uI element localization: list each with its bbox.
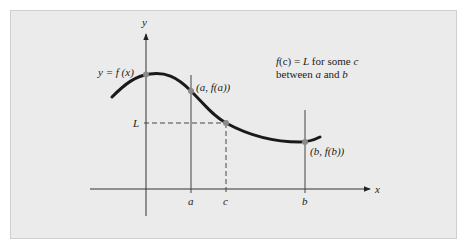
point-a bbox=[188, 88, 194, 94]
c-text: c bbox=[353, 55, 358, 67]
point-b-label: (b, f(b)) bbox=[310, 145, 344, 157]
for-some-text: for some bbox=[309, 55, 353, 67]
L-tick-label: L bbox=[133, 117, 139, 129]
point-b bbox=[302, 139, 308, 145]
y-axis-label: y bbox=[142, 16, 147, 28]
equals-text: (c) = bbox=[279, 55, 303, 67]
b-tick-label: b bbox=[302, 195, 308, 207]
between-text: between bbox=[276, 68, 315, 80]
ivt-annotation: f(c) = L for some c between a and b bbox=[276, 55, 358, 81]
point-c bbox=[223, 120, 229, 126]
a-tick-label: a bbox=[188, 195, 194, 207]
y-intercept-point bbox=[143, 72, 149, 78]
x-axis-label: x bbox=[375, 183, 380, 195]
annotation-line-2: between a and b bbox=[276, 68, 358, 81]
annotation-line-1: f(c) = L for some c bbox=[276, 55, 358, 68]
curve-label: y = f (x) bbox=[98, 66, 134, 78]
point-a-label: (a, f(a)) bbox=[196, 81, 230, 93]
and-text: and bbox=[321, 68, 342, 80]
ivt-diagram bbox=[0, 0, 465, 246]
b-text: b bbox=[342, 68, 348, 80]
c-tick-label: c bbox=[223, 195, 228, 207]
